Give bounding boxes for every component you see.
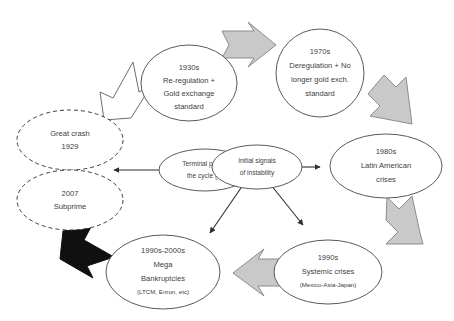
diagram-canvas: Great crash 1929 2007 Subprime 1930s Re-…	[0, 0, 454, 321]
mega-line-4: (LTCM, Enron, etc)	[137, 288, 189, 295]
systemic-line-2: Systemic crises	[302, 267, 355, 276]
node-mega-bankruptcies[interactable]: 1990s-2000s Mega Bankruptcies (LTCM, Enr…	[106, 235, 220, 309]
mega-line-3: Bankruptcies	[141, 274, 185, 283]
node-2007-subprime[interactable]: 2007 Subprime	[17, 170, 123, 230]
systemic-line-1: 1990s	[318, 253, 339, 262]
initial-line-1: Initial signals	[238, 157, 276, 165]
node-great-crash-1929[interactable]: Great crash 1929	[17, 110, 123, 170]
node-1990s-systemic-crises[interactable]: 1990s Systemic crises (Mexico-Asia-Japan…	[274, 240, 382, 304]
reregulation-line-3: Gold exchange	[163, 89, 214, 98]
financial-crisis-cycle-diagram: Great crash 1929 2007 Subprime 1930s Re-…	[0, 0, 454, 321]
initial-line-2: of instability	[240, 169, 275, 177]
node-initial-signals[interactable]: Initial signals of instability	[212, 145, 302, 189]
deregulation-line-3: longer gold exch.	[291, 75, 349, 84]
reregulation-line-4: standard	[174, 102, 204, 111]
reregulation-line-1: 1930s	[179, 63, 200, 72]
node-1980s-latin-american[interactable]: 1980s Latin American crises	[330, 134, 442, 198]
deregulation-line-4: standard	[305, 89, 335, 98]
subprime-line-1: 2007	[62, 189, 79, 198]
latin-line-1: 1980s	[376, 147, 397, 156]
deregulation-line-2: Deregulation + No	[289, 61, 350, 70]
deregulation-line-1: 1970s	[310, 47, 331, 56]
systemic-line-3: (Mexico-Asia-Japan)	[300, 281, 357, 288]
node-1970s-deregulation[interactable]: 1970s Deregulation + No longer gold exch…	[276, 29, 364, 117]
connector-initial-to-mega	[210, 185, 243, 233]
gray-bent-arrow-down-left-icon	[386, 196, 423, 244]
node-1930s-reregulation[interactable]: 1930s Re-regulation + Gold exchange stan…	[141, 45, 237, 121]
subprime-line-2: Subprime	[54, 202, 87, 211]
mega-line-2: Mega	[154, 260, 174, 269]
latin-line-2: Latin American	[361, 161, 411, 170]
latin-line-3: crises	[376, 175, 396, 184]
gray-block-arrow-right-icon	[222, 22, 276, 67]
great-crash-line-2: 1929	[62, 142, 79, 151]
great-crash-line-1: Great crash	[50, 129, 90, 138]
gray-bent-arrow-down-right-icon	[368, 75, 412, 124]
connector-initial-to-systemic	[271, 185, 303, 225]
mega-line-1: 1990s-2000s	[141, 246, 185, 255]
reregulation-line-2: Re-regulation +	[163, 76, 216, 85]
